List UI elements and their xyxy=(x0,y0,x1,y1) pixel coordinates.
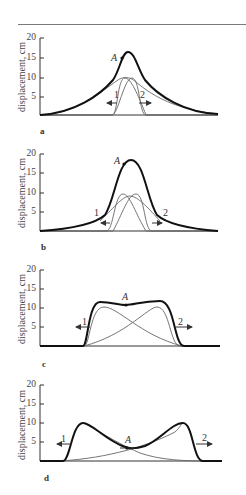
label-2-d: 2 xyxy=(202,432,207,443)
panel-label-a: a xyxy=(40,126,45,136)
label-A-d: A xyxy=(125,434,131,445)
point-A-d xyxy=(125,446,128,449)
tick-10-c: 10 xyxy=(14,302,36,312)
label-1-d: 1 xyxy=(61,433,66,444)
label-A-c: A xyxy=(122,291,128,302)
tick-20-c: 20 xyxy=(14,264,36,274)
tick-15-d: 15 xyxy=(14,398,36,408)
panel-label-b: b xyxy=(41,242,46,252)
label-2-b: 2 xyxy=(163,207,168,218)
tick-10-a: 10 xyxy=(14,72,36,82)
point-A-c xyxy=(124,303,127,306)
point-A-a xyxy=(120,56,123,59)
tick-20-d: 20 xyxy=(14,379,36,389)
tick-20-b: 20 xyxy=(14,148,36,158)
panel-label-c: c xyxy=(42,359,46,369)
tick-10-d: 10 xyxy=(14,417,36,427)
tick-15-c: 15 xyxy=(14,283,36,293)
tick-5-d: 5 xyxy=(14,436,36,446)
tick-10-b: 10 xyxy=(14,187,36,197)
label-A-b: A xyxy=(114,155,120,166)
panel-a-axes xyxy=(40,38,218,115)
tick-5-b: 5 xyxy=(14,206,36,216)
figure-svg xyxy=(0,0,246,495)
label-1-c: 1 xyxy=(82,316,87,327)
label-A-a: A xyxy=(111,52,117,63)
panel-b-axes xyxy=(40,154,218,231)
tick-5-a: 5 xyxy=(14,91,36,101)
panel-a-curves xyxy=(40,52,218,115)
panel-c-axes xyxy=(40,270,220,346)
tick-15-a: 15 xyxy=(14,52,36,62)
label-1-a: 1 xyxy=(114,89,119,100)
tick-15-b: 15 xyxy=(14,167,36,177)
label-2-a: 2 xyxy=(140,89,145,100)
tick-5-c: 5 xyxy=(14,321,36,331)
point-A-b xyxy=(122,162,125,165)
panel-label-d: d xyxy=(44,473,49,483)
panel-c-curves xyxy=(40,301,220,346)
label-2-c: 2 xyxy=(178,316,183,327)
panel-b-curves xyxy=(40,160,218,231)
tick-20-a: 20 xyxy=(14,32,36,42)
label-1-b: 1 xyxy=(94,207,99,218)
